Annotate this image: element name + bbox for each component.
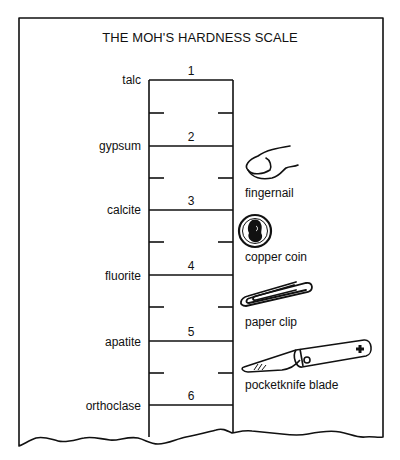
mineral-label-talc: talc [31, 73, 141, 87]
level-number-3: 3 [181, 194, 201, 208]
pocketknife-icon [242, 340, 371, 372]
tool-label-paper-clip: paper clip [245, 315, 297, 329]
tool-label-copper-coin: copper coin [245, 250, 307, 264]
mineral-label-fluorite: fluorite [31, 269, 141, 283]
fingernail-icon [246, 146, 298, 179]
level-number-6: 6 [181, 389, 201, 403]
tool-label-fingernail: fingernail [245, 186, 294, 200]
diagram-title: THE MOH'S HARDNESS SCALE [0, 30, 400, 45]
mineral-label-gypsum: gypsum [31, 139, 141, 153]
level-number-4: 4 [181, 259, 201, 273]
paper-clip-icon [241, 282, 312, 306]
level-number-1: 1 [181, 64, 201, 78]
mineral-label-calcite: calcite [31, 203, 141, 217]
level-number-2: 2 [181, 130, 201, 144]
tool-label-pocketknife: pocketknife blade [245, 378, 338, 392]
mineral-label-apatite: apatite [31, 335, 141, 349]
mineral-label-orthoclase: orthoclase [31, 399, 141, 413]
copper-coin-icon [239, 215, 271, 247]
level-number-5: 5 [181, 325, 201, 339]
